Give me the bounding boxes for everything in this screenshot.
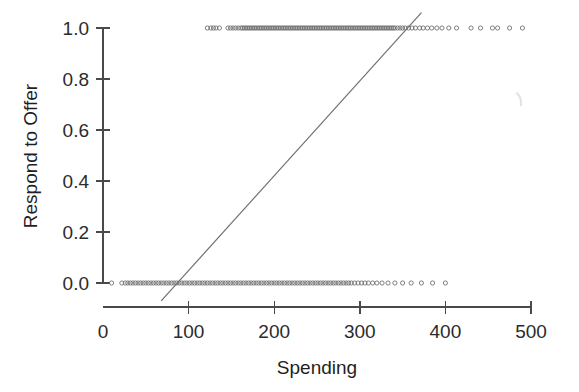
data-point (409, 281, 413, 285)
x-tick-label: 300 (344, 321, 376, 342)
data-point (447, 26, 451, 30)
series-respond-yes (205, 26, 524, 30)
x-tick-label: 400 (430, 321, 462, 342)
y-tick-label: 0.0 (63, 273, 89, 294)
data-point (401, 281, 405, 285)
plot-canvas: 0.00.20.40.60.81.0 0100200300400500 Spen… (0, 0, 579, 392)
data-point (490, 26, 494, 30)
data-point (435, 26, 439, 30)
data-point (430, 281, 434, 285)
y-tick-label: 0.8 (63, 69, 89, 90)
x-tick-label: 200 (258, 321, 290, 342)
y-tick-label: 0.2 (63, 222, 89, 243)
data-point (375, 281, 379, 285)
y-tick-label: 1.0 (63, 18, 89, 39)
data-point (496, 26, 500, 30)
y-axis: 0.00.20.40.60.81.0 (63, 18, 110, 294)
x-axis: 0100200300400500 (98, 301, 547, 342)
linear-fit-line (161, 13, 421, 301)
data-point (393, 281, 397, 285)
x-tick-label: 500 (515, 321, 547, 342)
x-axis-title: Spending (277, 357, 357, 378)
data-point (386, 281, 390, 285)
data-point (380, 281, 384, 285)
data-point (508, 26, 512, 30)
data-point (520, 26, 524, 30)
data-point (469, 26, 473, 30)
y-axis-title: Respond to Offer (20, 83, 41, 228)
series-respond-no (109, 281, 447, 285)
scatter-plot-figure: 0.00.20.40.60.81.0 0100200300400500 Spen… (0, 0, 579, 392)
data-point (109, 281, 113, 285)
data-point (440, 26, 444, 30)
data-point (425, 26, 429, 30)
y-tick-label: 0.6 (63, 120, 89, 141)
data-point (454, 26, 458, 30)
y-axis-tick-labels: 0.00.20.40.60.81.0 (63, 18, 90, 294)
x-axis-tick-labels: 0100200300400500 (98, 321, 547, 342)
data-point (430, 26, 434, 30)
data-point (419, 281, 423, 285)
data-point (478, 26, 482, 30)
x-tick-label: 0 (98, 321, 109, 342)
x-tick-label: 100 (173, 321, 205, 342)
data-point (443, 281, 447, 285)
data-point (371, 281, 375, 285)
y-tick-label: 0.4 (63, 171, 90, 192)
scan-smudge-artifact (517, 93, 521, 105)
data-points-layer (109, 26, 524, 285)
